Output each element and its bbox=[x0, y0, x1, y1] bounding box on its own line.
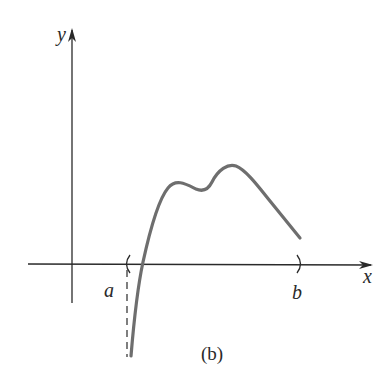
x-axis-label: x bbox=[362, 265, 372, 287]
x-axis bbox=[28, 264, 371, 265]
y-axis-label: y bbox=[55, 23, 66, 46]
right-open-bracket bbox=[297, 255, 301, 273]
function-curve bbox=[131, 165, 300, 356]
function-graph-diagram: y x a b (b) bbox=[0, 0, 392, 392]
interval-left-label: a bbox=[104, 279, 114, 301]
interval-right-label: b bbox=[292, 281, 302, 303]
figure-caption: (b) bbox=[201, 343, 223, 365]
